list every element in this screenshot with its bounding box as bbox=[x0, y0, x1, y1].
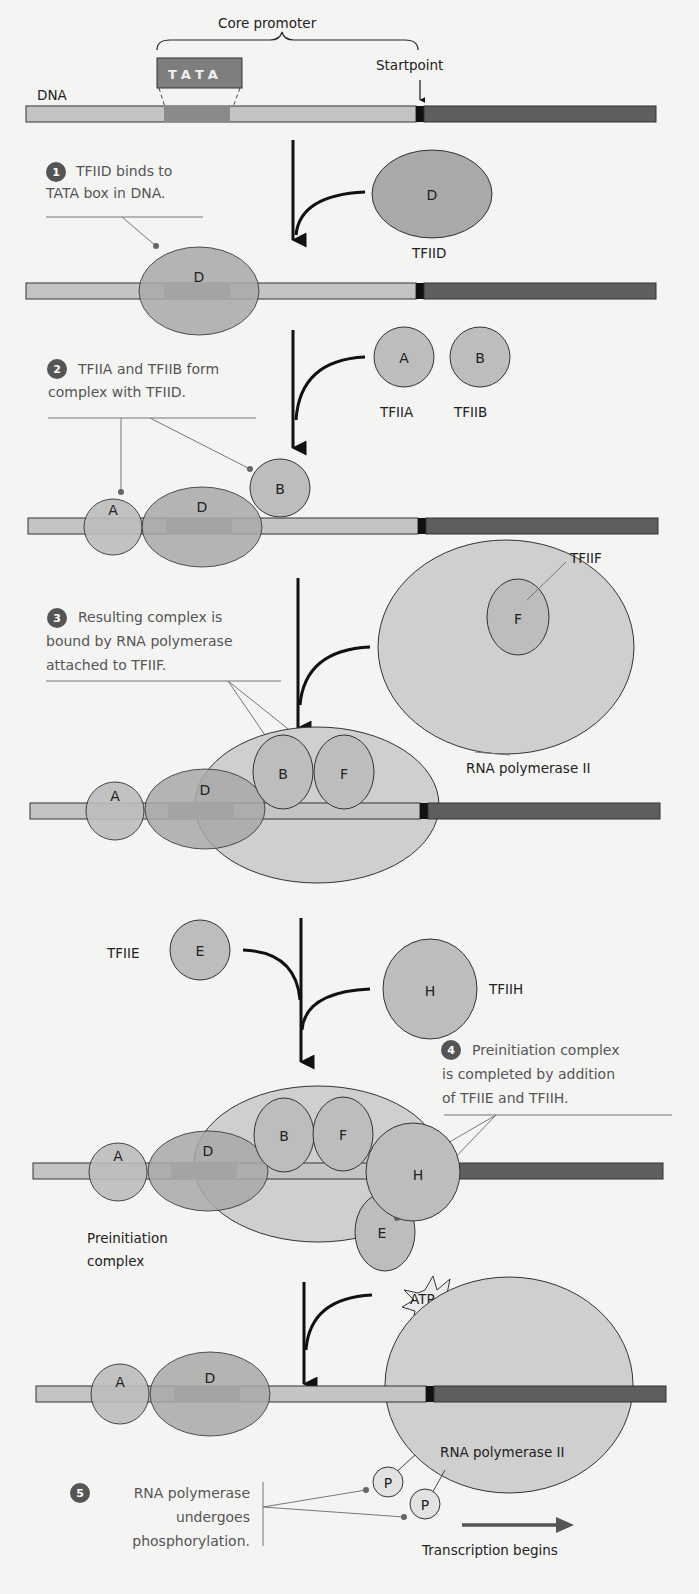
tfiid-bound-2-glyph: D bbox=[197, 499, 208, 515]
tfiib-label: TFIIB bbox=[453, 404, 487, 420]
step-3-line-1: Resulting complex is bbox=[78, 609, 222, 625]
tfiif-label: TFIIF bbox=[569, 550, 602, 566]
tfiid-bound bbox=[139, 247, 259, 335]
tfiid-bound-glyph: D bbox=[194, 269, 205, 285]
step-2: A B TFIIA TFIIB 2 TFIIA and TFIIB form c… bbox=[28, 327, 658, 567]
step-1-leader bbox=[122, 217, 156, 246]
step-2-curve bbox=[296, 357, 365, 420]
dna-label: DNA bbox=[37, 87, 67, 103]
tfiif-step4-glyph: F bbox=[339, 1127, 347, 1143]
tfiie-step4-glyph: E bbox=[378, 1225, 387, 1241]
dna-strand-2 bbox=[26, 283, 656, 299]
tfiih-glyph: H bbox=[425, 983, 436, 999]
tfiid-label: TFIID bbox=[411, 245, 446, 261]
step-1-number: 1 bbox=[52, 166, 60, 179]
tfiid-step3-glyph: D bbox=[200, 782, 211, 798]
tfiia-glyph: A bbox=[399, 350, 409, 366]
step-5: ATP A D RNA polymerase II P P 5 RNA poly… bbox=[36, 1276, 666, 1558]
core-promoter-label: Core promoter bbox=[218, 15, 317, 31]
phosphate-2-glyph: P bbox=[421, 1497, 429, 1513]
startpoint-label: Startpoint bbox=[376, 57, 443, 73]
step-2-line-1: TFIIA and TFIIB form bbox=[77, 361, 219, 377]
preinitiation-label-1: Preinitiation bbox=[87, 1230, 168, 1246]
tfiia-bound-glyph: A bbox=[108, 502, 118, 518]
step-1-pointer bbox=[153, 243, 159, 249]
tfiib-glyph: B bbox=[475, 350, 485, 366]
step-5-line-1: RNA polymerase bbox=[134, 1485, 250, 1501]
step-3: F TFIIF RNA polymerase II 3 Resulting co… bbox=[30, 540, 660, 883]
step-1-line-2: TATA box in DNA. bbox=[45, 185, 165, 201]
tfiia-step4-glyph: A bbox=[113, 1148, 123, 1164]
step-3-line-2: bound by RNA polymerase bbox=[46, 633, 233, 649]
tfiib-step4-glyph: B bbox=[279, 1128, 289, 1144]
tata-label: TATA bbox=[168, 67, 223, 82]
preinitiation-label-2: complex bbox=[87, 1253, 144, 1269]
transcription-initiation-diagram: Core promoter TATA Startpoint DNA D TFII… bbox=[0, 0, 699, 1594]
tfiia-step3-glyph: A bbox=[110, 788, 120, 804]
tfiih-step4-glyph: H bbox=[413, 1167, 424, 1183]
step-4: E TFIIE H TFIIH 4 Preinitiation complex … bbox=[33, 918, 672, 1271]
step-4-line-3: of TFIIE and TFIIH. bbox=[442, 1090, 569, 1106]
step-1-curve bbox=[296, 192, 365, 235]
tfiif-step3-glyph: F bbox=[340, 766, 348, 782]
promoter-header: Core promoter TATA Startpoint DNA bbox=[26, 15, 656, 122]
rna-pol-ii-final-label: RNA polymerase II bbox=[440, 1444, 564, 1460]
tfiif-glyph: F bbox=[514, 611, 522, 627]
tfiib-bound-glyph: B bbox=[275, 481, 285, 497]
rna-pol-ii-final bbox=[385, 1277, 633, 1493]
step-1-line-1: TFIID binds to bbox=[75, 163, 172, 179]
rna-pol-ii-label: RNA polymerase II bbox=[466, 760, 590, 776]
step-3-number: 3 bbox=[53, 612, 61, 625]
step-4-number: 4 bbox=[447, 1044, 455, 1057]
tfiid-step4-glyph: D bbox=[203, 1143, 214, 1159]
tfiie-glyph: E bbox=[196, 943, 205, 959]
step-4-line-2: is completed by addition bbox=[442, 1066, 615, 1082]
core-promoter-brace bbox=[157, 32, 418, 50]
tfiie-label: TFIIE bbox=[106, 945, 140, 961]
tfiia-step5-glyph: A bbox=[115, 1374, 125, 1390]
step-2-leaders bbox=[121, 418, 250, 492]
dna-strand-1 bbox=[26, 106, 656, 122]
transcription-begins-label: Transcription begins bbox=[421, 1542, 558, 1558]
tfiib-step3-glyph: B bbox=[278, 766, 288, 782]
step-5-line-3: phosphorylation. bbox=[132, 1533, 250, 1549]
phosphate-1-glyph: P bbox=[384, 1475, 392, 1491]
tfiid-glyph: D bbox=[427, 187, 438, 203]
tfiid-step5-glyph: D bbox=[205, 1370, 216, 1386]
step-2-line-2: complex with TFIID. bbox=[48, 384, 186, 400]
step-3-curve bbox=[300, 647, 370, 705]
step-3-line-3: attached to TFIIF. bbox=[46, 657, 166, 673]
step-1: D TFIID 1 TFIID binds to TATA box in DNA… bbox=[26, 140, 656, 335]
step-2-number: 2 bbox=[53, 363, 61, 376]
step-5-line-2: undergoes bbox=[176, 1509, 250, 1525]
tfiih-label: TFIIH bbox=[488, 981, 523, 997]
step-5-number: 5 bbox=[76, 1487, 84, 1500]
step-4-line-1: Preinitiation complex bbox=[472, 1042, 619, 1058]
tfiia-label: TFIIA bbox=[379, 404, 414, 420]
